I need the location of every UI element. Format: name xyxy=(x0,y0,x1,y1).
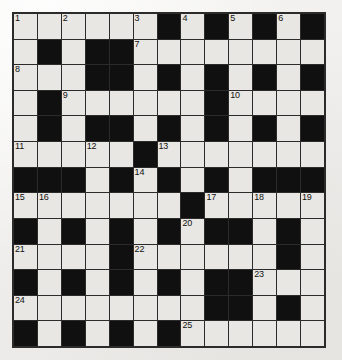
grid-cell[interactable]: 23 xyxy=(253,270,276,295)
grid-cell[interactable]: 21 xyxy=(14,245,37,270)
grid-cell[interactable] xyxy=(229,193,252,218)
grid-cell[interactable]: 13 xyxy=(158,142,181,167)
grid-cell[interactable] xyxy=(62,142,85,167)
grid-cell[interactable] xyxy=(134,321,157,346)
grid-cell[interactable]: 19 xyxy=(301,193,324,218)
grid-cell[interactable]: 12 xyxy=(86,142,109,167)
grid-cell[interactable] xyxy=(301,40,324,65)
grid-cell[interactable] xyxy=(86,270,109,295)
grid-cell[interactable] xyxy=(229,40,252,65)
grid-cell[interactable]: 7 xyxy=(134,40,157,65)
grid-cell[interactable] xyxy=(229,65,252,90)
grid-cell[interactable] xyxy=(205,142,228,167)
crossword-grid[interactable]: 1234567891011121314151617181920212223242… xyxy=(12,12,326,348)
grid-cell[interactable] xyxy=(38,321,61,346)
grid-cell[interactable] xyxy=(205,321,228,346)
grid-cell[interactable] xyxy=(253,321,276,346)
grid-cell[interactable] xyxy=(277,193,300,218)
grid-cell[interactable] xyxy=(229,245,252,270)
grid-cell[interactable]: 11 xyxy=(14,142,37,167)
grid-cell[interactable] xyxy=(301,270,324,295)
grid-cell[interactable] xyxy=(229,321,252,346)
grid-cell[interactable] xyxy=(134,270,157,295)
grid-cell[interactable] xyxy=(110,193,133,218)
grid-cell[interactable] xyxy=(277,40,300,65)
grid-cell[interactable] xyxy=(181,270,204,295)
grid-cell[interactable] xyxy=(134,65,157,90)
grid-cell[interactable] xyxy=(181,65,204,90)
grid-cell[interactable]: 22 xyxy=(134,245,157,270)
grid-cell[interactable] xyxy=(158,296,181,321)
grid-cell[interactable] xyxy=(62,245,85,270)
grid-cell[interactable]: 4 xyxy=(181,14,204,39)
grid-cell[interactable] xyxy=(86,193,109,218)
grid-cell[interactable] xyxy=(38,296,61,321)
grid-cell[interactable] xyxy=(253,296,276,321)
grid-cell[interactable] xyxy=(38,219,61,244)
grid-cell[interactable] xyxy=(181,168,204,193)
grid-cell[interactable]: 6 xyxy=(277,14,300,39)
grid-cell[interactable] xyxy=(110,142,133,167)
grid-cell[interactable] xyxy=(38,270,61,295)
grid-cell[interactable] xyxy=(301,91,324,116)
grid-cell[interactable]: 8 xyxy=(14,65,37,90)
grid-cell[interactable]: 10 xyxy=(229,91,252,116)
grid-cell[interactable] xyxy=(38,245,61,270)
grid-cell[interactable]: 18 xyxy=(253,193,276,218)
grid-cell[interactable] xyxy=(134,193,157,218)
grid-cell[interactable] xyxy=(62,296,85,321)
grid-cell[interactable] xyxy=(301,321,324,346)
grid-cell[interactable] xyxy=(229,168,252,193)
grid-cell[interactable] xyxy=(301,219,324,244)
grid-cell[interactable] xyxy=(134,219,157,244)
grid-cell[interactable] xyxy=(62,40,85,65)
grid-cell[interactable] xyxy=(229,142,252,167)
grid-cell[interactable] xyxy=(277,321,300,346)
grid-cell[interactable] xyxy=(158,245,181,270)
grid-cell[interactable] xyxy=(86,321,109,346)
grid-cell[interactable] xyxy=(38,14,61,39)
grid-cell[interactable] xyxy=(86,168,109,193)
grid-cell[interactable] xyxy=(205,40,228,65)
grid-cell[interactable] xyxy=(62,65,85,90)
grid-cell[interactable] xyxy=(277,116,300,141)
grid-cell[interactable] xyxy=(134,116,157,141)
grid-cell[interactable]: 2 xyxy=(62,14,85,39)
grid-cell[interactable] xyxy=(253,219,276,244)
grid-cell[interactable] xyxy=(277,65,300,90)
grid-cell[interactable]: 16 xyxy=(38,193,61,218)
grid-cell[interactable] xyxy=(181,142,204,167)
grid-cell[interactable] xyxy=(38,65,61,90)
grid-cell[interactable] xyxy=(181,245,204,270)
grid-cell[interactable] xyxy=(253,40,276,65)
grid-cell[interactable] xyxy=(62,116,85,141)
grid-cell[interactable] xyxy=(301,296,324,321)
grid-cell[interactable]: 1 xyxy=(14,14,37,39)
grid-cell[interactable] xyxy=(86,14,109,39)
grid-cell[interactable] xyxy=(253,91,276,116)
grid-cell[interactable] xyxy=(181,116,204,141)
grid-cell[interactable]: 9 xyxy=(62,91,85,116)
grid-cell[interactable] xyxy=(62,193,85,218)
grid-cell[interactable] xyxy=(158,40,181,65)
grid-cell[interactable] xyxy=(229,116,252,141)
grid-cell[interactable]: 20 xyxy=(181,219,204,244)
grid-cell[interactable] xyxy=(14,116,37,141)
grid-cell[interactable] xyxy=(181,91,204,116)
grid-cell[interactable]: 14 xyxy=(134,168,157,193)
grid-cell[interactable] xyxy=(253,245,276,270)
grid-cell[interactable] xyxy=(301,245,324,270)
grid-cell[interactable] xyxy=(181,296,204,321)
grid-cell[interactable] xyxy=(277,91,300,116)
grid-cell[interactable] xyxy=(277,142,300,167)
grid-cell[interactable] xyxy=(277,270,300,295)
grid-cell[interactable] xyxy=(38,142,61,167)
grid-cell[interactable]: 15 xyxy=(14,193,37,218)
grid-cell[interactable] xyxy=(110,91,133,116)
grid-cell[interactable] xyxy=(253,142,276,167)
grid-cell[interactable] xyxy=(110,296,133,321)
grid-cell[interactable] xyxy=(86,219,109,244)
grid-cell[interactable] xyxy=(158,91,181,116)
grid-cell[interactable] xyxy=(14,40,37,65)
grid-cell[interactable]: 5 xyxy=(229,14,252,39)
